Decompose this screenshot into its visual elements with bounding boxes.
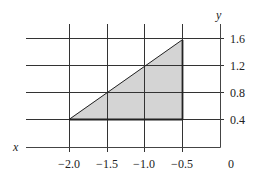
x-axis-label: x [12,140,19,154]
y-tick-label: 0.8 [230,86,245,100]
y-tick-label: 1.2 [230,59,245,73]
y-axis-label: y [215,8,222,22]
x-tick-label: −1.0 [133,157,155,171]
x-tick-label: −0.5 [171,157,193,171]
origin-label: 0 [228,157,234,171]
y-tick-label: 1.6 [230,32,245,46]
x-tick-label: −1.5 [96,157,118,171]
y-tick-label: 0.4 [230,113,245,127]
region-diagram: x y 0 −2.0 −1.5 −1.0 −0.5 1.6 1.2 0.8 0.… [0,0,256,180]
x-tick-label: −2.0 [58,157,80,171]
